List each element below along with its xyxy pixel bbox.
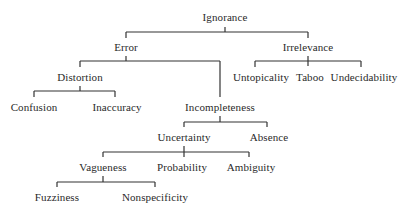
node-uncertainty: Uncertainty	[157, 131, 210, 143]
node-probability: Probability	[157, 161, 207, 173]
node-ignorance: Ignorance	[203, 11, 248, 23]
node-untopicality: Untopicality	[233, 71, 289, 83]
ignorance-taxonomy-diagram: Ignorance Error Irrelevance Distortion U…	[0, 0, 410, 213]
node-undecidability: Undecidability	[331, 71, 398, 83]
node-irrelevance: Irrelevance	[283, 41, 334, 53]
node-error: Error	[114, 41, 138, 53]
node-distortion: Distortion	[57, 71, 103, 83]
node-vagueness: Vagueness	[79, 161, 126, 173]
node-absence: Absence	[250, 131, 289, 143]
node-nonspecificity: Nonspecificity	[122, 191, 188, 203]
node-fuzziness: Fuzziness	[35, 191, 79, 203]
node-inaccuracy: Inaccuracy	[92, 101, 141, 113]
node-ambiguity: Ambiguity	[227, 161, 276, 173]
node-taboo: Taboo	[296, 71, 324, 83]
node-confusion: Confusion	[11, 101, 58, 113]
node-incompleteness: Incompleteness	[185, 101, 255, 113]
